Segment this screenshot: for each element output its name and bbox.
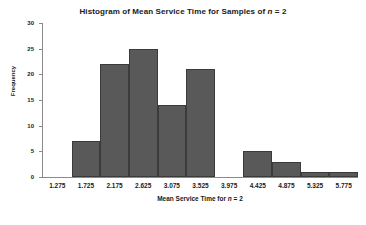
- histogram-figure: Histogram of Mean Service Time for Sampl…: [0, 0, 366, 225]
- y-axis-title: Frequency: [10, 51, 16, 111]
- histogram-bar: [243, 151, 272, 177]
- x-tick-label: 4.875: [278, 182, 294, 189]
- y-tick-label: 15: [27, 97, 34, 103]
- y-tick-mark: 20: [39, 74, 42, 75]
- x-tick-label: 3.075: [164, 182, 180, 189]
- x-axis-title: Mean Service Time for n = 2: [42, 195, 358, 202]
- x-tick-label: 4.425: [250, 182, 266, 189]
- x-axis-ticks: 1.2751.7252.1752.6253.0753.5253.9754.425…: [43, 182, 358, 194]
- y-tick-mark: 0: [39, 177, 42, 178]
- histogram-bar: [272, 162, 301, 177]
- histogram-bar: [301, 172, 330, 177]
- x-tick-label: 1.275: [49, 182, 65, 189]
- x-axis-title-after: = 2: [232, 195, 243, 202]
- x-tick-label: 2.175: [106, 182, 122, 189]
- y-tick-label: 25: [27, 46, 34, 52]
- chart-title-before: Histogram of Mean Service Time for Sampl…: [79, 7, 267, 16]
- histogram-bar: [72, 141, 101, 177]
- chart-title-after: = 2: [273, 7, 287, 16]
- y-tick-label: 30: [27, 20, 34, 26]
- x-axis-title-before: Mean Service Time for: [157, 195, 228, 202]
- x-tick-label: 5.775: [336, 182, 352, 189]
- y-tick-mark: 25: [39, 49, 42, 50]
- x-tick-label: 1.725: [78, 182, 94, 189]
- plot-area: 051015202530: [42, 23, 358, 178]
- y-tick-label: 5: [31, 148, 34, 154]
- y-tick-label: 10: [27, 123, 34, 129]
- chart-title: Histogram of Mean Service Time for Sampl…: [0, 7, 366, 16]
- histogram-bar: [329, 172, 358, 177]
- y-tick-mark: 5: [39, 151, 42, 152]
- bars-layer: [43, 23, 358, 177]
- histogram-bar: [186, 69, 215, 177]
- x-tick-label: 5.325: [307, 182, 323, 189]
- x-tick-label: 3.525: [192, 182, 208, 189]
- y-tick-label: 0: [31, 174, 34, 180]
- x-axis-line: [42, 177, 358, 178]
- histogram-bar: [100, 64, 129, 177]
- y-tick-mark: 10: [39, 126, 42, 127]
- histogram-bar: [129, 49, 158, 177]
- y-tick-mark: 15: [39, 100, 42, 101]
- histogram-bar: [158, 105, 187, 177]
- y-tick-label: 20: [27, 71, 34, 77]
- x-tick-label: 2.625: [135, 182, 151, 189]
- y-tick-mark: 30: [39, 23, 42, 24]
- x-tick-label: 3.975: [221, 182, 237, 189]
